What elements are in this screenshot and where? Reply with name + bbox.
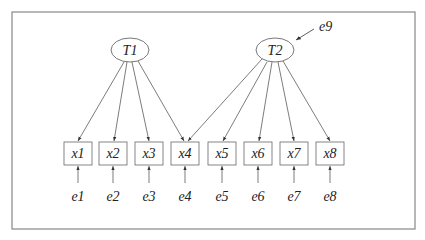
error-e4-label: e4 [178,189,191,204]
observed-x2: x2 [99,142,127,165]
error-arrows [78,166,330,183]
observed-x6: x6 [244,142,272,165]
observed-x5-label: x5 [214,146,228,161]
latent-t1-label: T1 [123,43,138,58]
observed-x1-label: x1 [70,146,84,161]
latent-t2: T2 [256,38,294,62]
observed-x6-label: x6 [250,146,264,161]
error-e2-label: e2 [106,189,119,204]
error-e6-label: e6 [251,189,264,204]
observed-x8: x8 [316,142,344,165]
observed-x8-label: x8 [322,146,336,161]
observed-x4-label: x4 [177,146,191,161]
observed-x3-label: x3 [141,146,155,161]
sem-diagram: T1 T2 e9 x1 x2 x3 x4 x5 [0,0,425,240]
loadings-t1 [78,61,184,141]
latent-t2-label: T2 [268,43,283,58]
error-e1-label: e1 [71,189,84,204]
observed-x1: x1 [64,142,92,165]
observed-x2-label: x2 [105,146,119,161]
observed-x5: x5 [208,142,236,165]
disturbance-e9-label: e9 [319,19,332,34]
observed-x4: x4 [171,142,199,165]
disturbance-arrow-e9 [296,29,314,40]
loadings-t2 [188,59,330,141]
error-e8-label: e8 [323,189,336,204]
latent-t1: T1 [111,38,149,62]
error-e7-label: e7 [287,189,301,204]
observed-x7-label: x7 [286,146,301,161]
observed-x3: x3 [135,142,163,165]
error-e3-label: e3 [142,189,155,204]
error-e5-label: e5 [215,189,228,204]
observed-x7: x7 [280,142,308,165]
